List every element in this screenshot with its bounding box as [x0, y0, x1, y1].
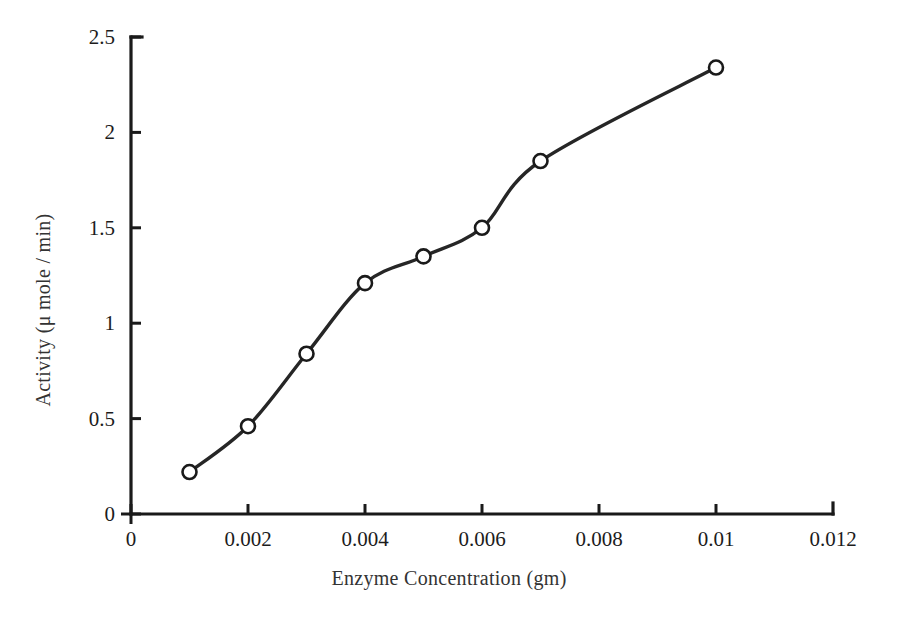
x-tick-label: 0.002 [224, 527, 271, 551]
chart-page: 00.511.522.5 00.0020.0040.0060.0080.010.… [0, 0, 898, 623]
data-series-activity [190, 68, 717, 472]
x-tick-labels: 00.0020.0040.0060.0080.010.012 [126, 527, 857, 551]
y-axis-title: Activity (μ mole / min) [32, 213, 55, 406]
data-point-markers [183, 61, 724, 479]
x-tick-label: 0.01 [698, 527, 735, 551]
x-tick-label: 0.012 [809, 527, 856, 551]
data-point-marker [358, 276, 372, 290]
data-point-marker [417, 249, 431, 263]
y-tick-label: 1 [105, 311, 116, 335]
data-point-marker [241, 419, 255, 433]
y-axis [121, 37, 142, 514]
data-point-marker [709, 61, 723, 75]
x-axis [131, 503, 833, 524]
x-tick-label: 0.006 [458, 527, 505, 551]
data-point-marker [475, 221, 489, 235]
y-tick-label: 2 [105, 120, 116, 144]
series-line-activity [190, 68, 717, 472]
data-point-marker [183, 465, 197, 479]
line-chart: 00.511.522.5 00.0020.0040.0060.0080.010.… [0, 0, 898, 623]
y-tick-label: 0.5 [89, 407, 115, 431]
data-point-marker [300, 347, 314, 361]
y-tick-label: 0 [105, 502, 116, 526]
y-tick-labels: 00.511.522.5 [89, 25, 115, 526]
y-tick-label: 2.5 [89, 25, 115, 49]
x-tick-label: 0 [126, 527, 137, 551]
y-tick-label: 1.5 [89, 216, 115, 240]
data-point-marker [534, 154, 548, 168]
x-tick-label: 0.008 [575, 527, 622, 551]
x-axis-title: Enzyme Concentration (gm) [331, 567, 566, 590]
x-tick-label: 0.004 [341, 527, 389, 551]
